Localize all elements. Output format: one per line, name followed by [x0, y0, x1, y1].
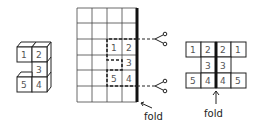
paper-cut-diagram: 1 2 3 5 4 1 2 3 [0, 0, 253, 128]
scissors-icon [155, 32, 167, 46]
fold-label-grid: fold [144, 111, 163, 122]
svg-text:3: 3 [205, 61, 211, 71]
cube-face-5: 5 [21, 80, 27, 90]
svg-text:3: 3 [220, 61, 226, 71]
fold-arrow-icon [141, 102, 152, 108]
grid-cell-3: 3 [126, 58, 132, 68]
svg-text:2: 2 [205, 45, 211, 55]
svg-text:4: 4 [220, 76, 226, 86]
svg-text:4: 4 [205, 76, 211, 86]
grid-cell-5: 5 [111, 74, 117, 84]
cube-face-1: 1 [21, 50, 27, 60]
svg-text:1: 1 [235, 45, 241, 55]
cube-face-4: 4 [36, 80, 42, 90]
scissors-icon [155, 79, 167, 93]
svg-text:5: 5 [235, 76, 241, 86]
grid-cell-4: 4 [126, 74, 132, 84]
svg-text:5: 5 [190, 76, 196, 86]
fold-label-unfolded: fold [204, 108, 223, 119]
cube-face-2: 2 [36, 50, 42, 60]
cube-face-3: 3 [36, 65, 42, 75]
grid-cell-2: 2 [126, 43, 132, 53]
fold-arrow-up-icon [213, 91, 219, 104]
svg-text:2: 2 [220, 45, 226, 55]
grid-labels: 1 2 3 5 4 [111, 43, 132, 84]
svg-text:1: 1 [190, 45, 196, 55]
grid-cell-1: 1 [111, 43, 117, 53]
